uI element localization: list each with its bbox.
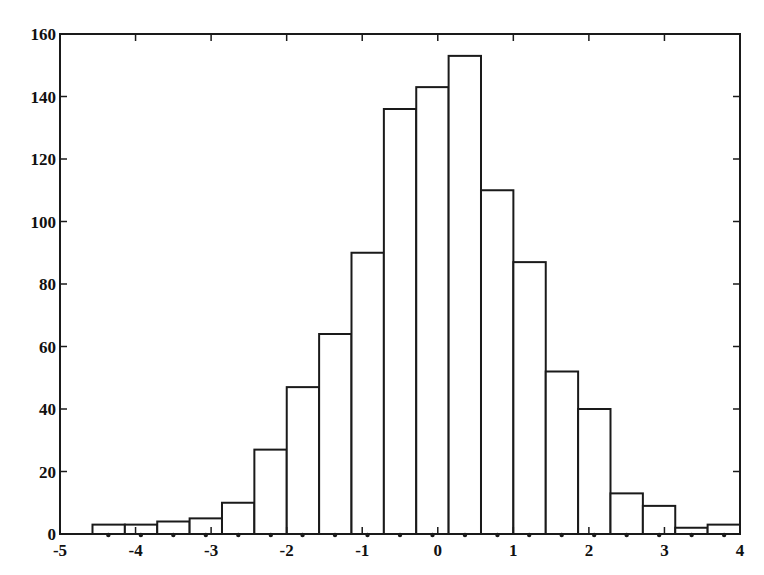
bin-center-marker xyxy=(495,533,499,537)
bin-center-marker xyxy=(430,533,434,537)
histogram-bar xyxy=(513,262,545,534)
histogram-bar xyxy=(92,525,124,534)
y-tick-label: 160 xyxy=(31,25,57,44)
bars-group xyxy=(92,56,740,534)
histogram-bar xyxy=(546,372,578,535)
histogram-bar xyxy=(157,522,189,535)
y-tick-label: 80 xyxy=(39,275,56,294)
bin-center-marker xyxy=(139,533,143,537)
histogram-bar xyxy=(287,387,319,534)
histogram-bar xyxy=(222,503,254,534)
histogram-bar xyxy=(416,87,448,534)
bin-center-marker xyxy=(624,533,628,537)
x-tick-label: -3 xyxy=(204,541,218,560)
histogram-bar xyxy=(610,493,642,534)
bin-center-marker xyxy=(592,533,596,537)
bin-center-marker xyxy=(722,533,726,537)
histogram-bar xyxy=(351,253,383,534)
histogram-chart: 020406080100120140160 -5-4-3-2-101234 xyxy=(0,0,764,575)
bin-center-marker xyxy=(269,533,273,537)
x-tick-label: 1 xyxy=(509,541,518,560)
bin-center-marker xyxy=(527,533,531,537)
bin-center-marker xyxy=(559,533,563,537)
bin-center-marker xyxy=(204,533,208,537)
x-tick-label: -1 xyxy=(355,541,369,560)
x-tick-label: -5 xyxy=(53,541,67,560)
histogram-bar xyxy=(319,334,351,534)
x-tick-label: 2 xyxy=(585,541,594,560)
bin-center-marker xyxy=(657,533,661,537)
histogram-bar xyxy=(125,525,157,534)
bin-center-marker xyxy=(333,533,337,537)
bin-center-marker xyxy=(106,533,110,537)
y-tick-label: 100 xyxy=(31,213,57,232)
histogram-bar xyxy=(481,190,513,534)
bin-center-marker xyxy=(236,533,240,537)
histogram-bar xyxy=(643,506,675,534)
y-tick-label: 60 xyxy=(39,338,56,357)
histogram-bar xyxy=(384,109,416,534)
y-tick-label: 140 xyxy=(31,88,57,107)
bin-center-marker xyxy=(365,533,369,537)
histogram-bar xyxy=(254,450,286,534)
bin-center-marker xyxy=(171,533,175,537)
histogram-bar xyxy=(708,525,740,534)
bin-center-marker xyxy=(398,533,402,537)
x-tick-label: -4 xyxy=(128,541,143,560)
histogram-bar xyxy=(449,56,481,534)
y-tick-label: 40 xyxy=(39,400,56,419)
bin-center-marker xyxy=(689,533,693,537)
x-tick-label: 4 xyxy=(736,541,745,560)
x-tick-label: 3 xyxy=(660,541,669,560)
bin-center-marker xyxy=(463,533,467,537)
y-tick-label: 120 xyxy=(31,150,57,169)
x-tick-label: -2 xyxy=(280,541,294,560)
y-tick-label: 20 xyxy=(39,463,56,482)
bin-center-marker xyxy=(300,533,304,537)
histogram-bar xyxy=(578,409,610,534)
histogram-bar xyxy=(190,518,222,534)
x-tick-label: 0 xyxy=(434,541,443,560)
